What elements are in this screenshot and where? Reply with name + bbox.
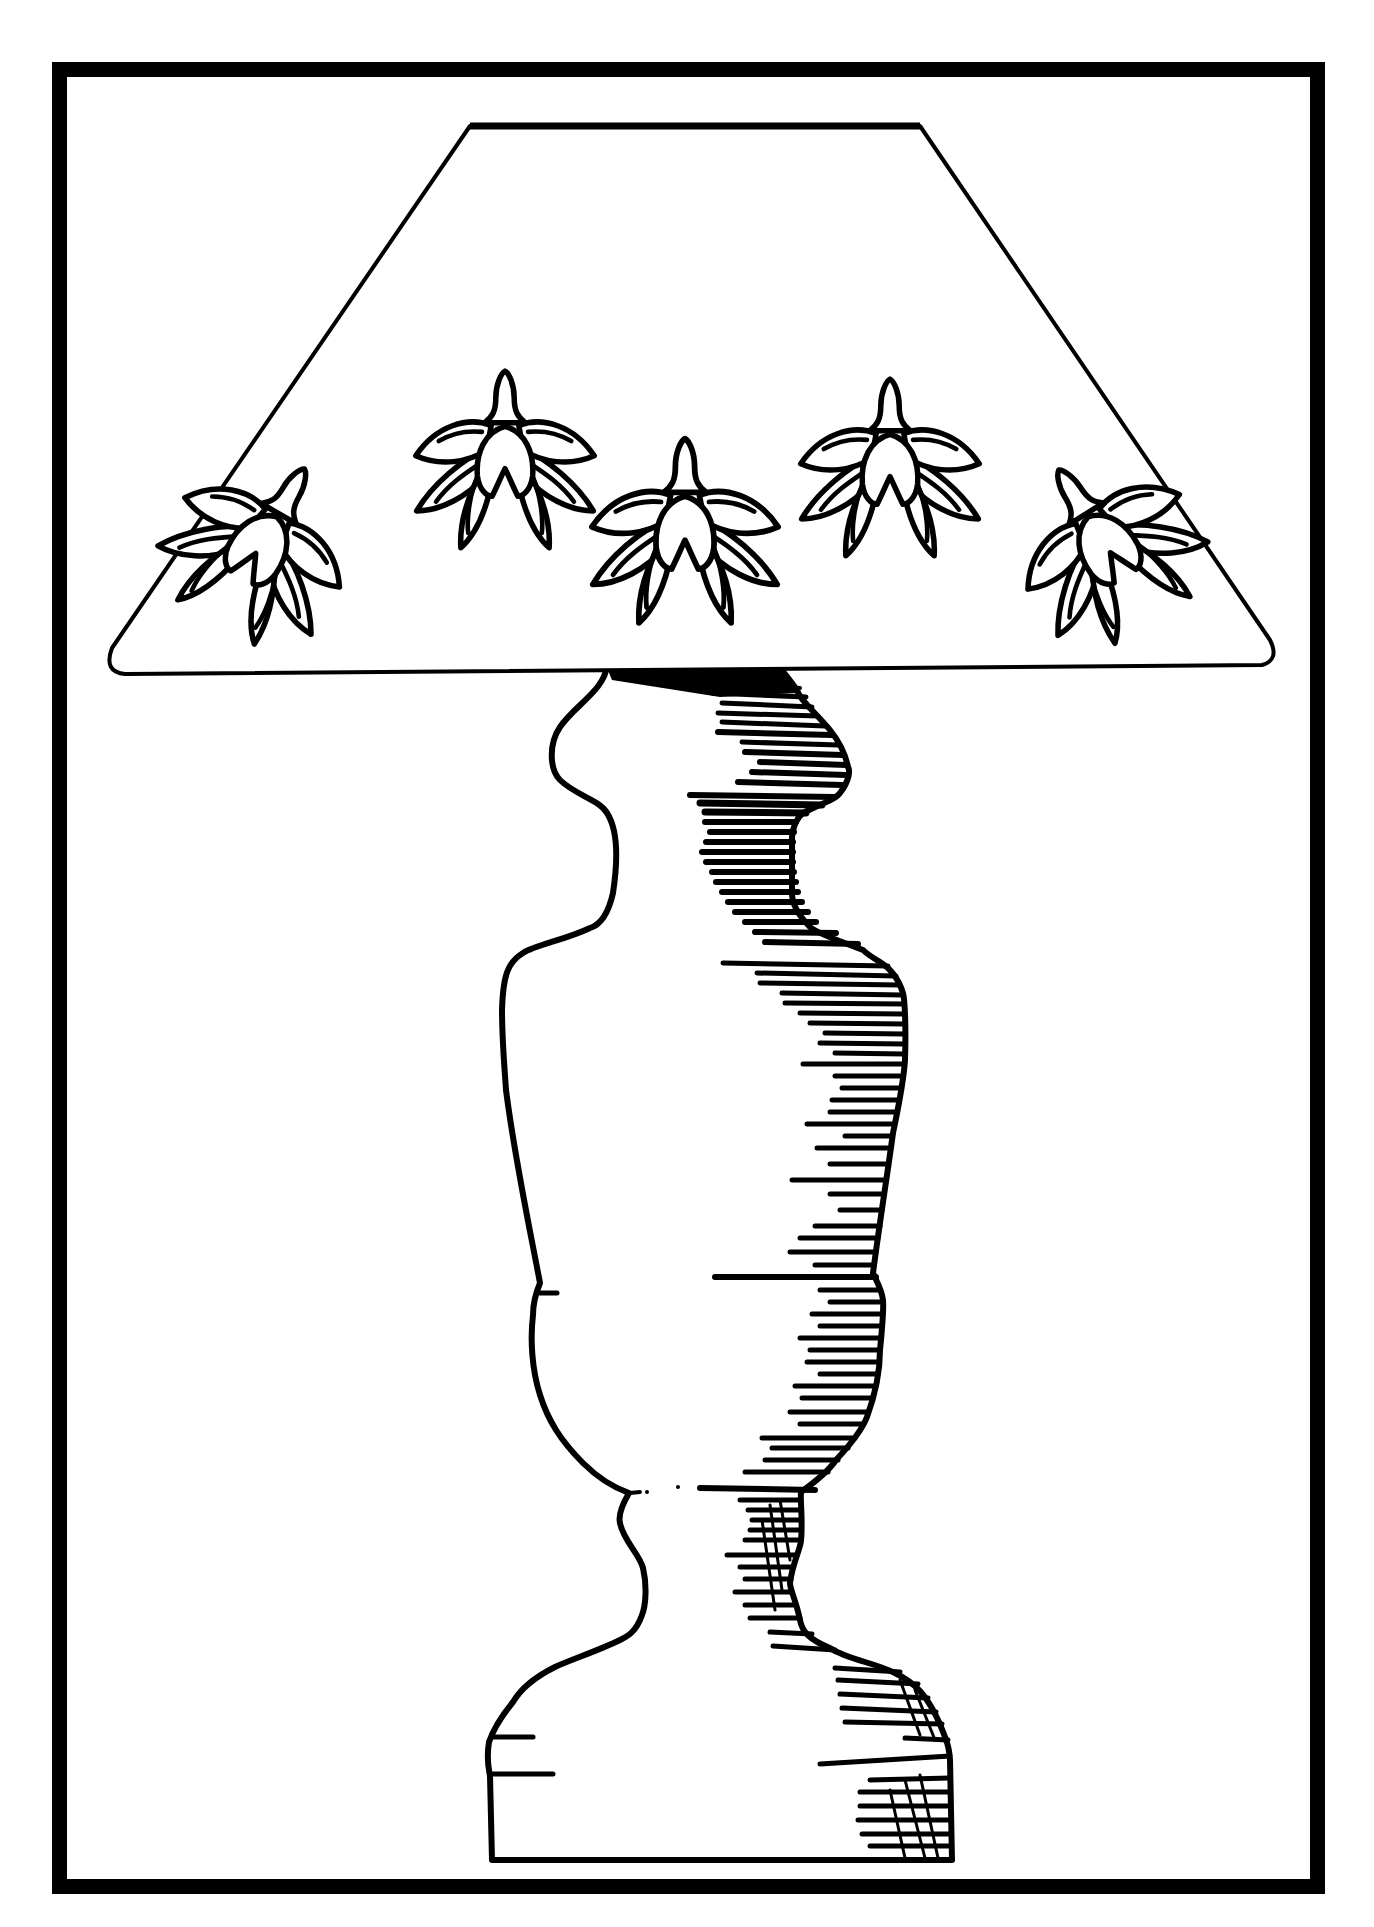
lamp-illustration: Table lamp line drawing (0, 0, 1374, 1927)
lamp-drawing-svg (0, 0, 1374, 1927)
lamp-base (488, 665, 952, 1860)
